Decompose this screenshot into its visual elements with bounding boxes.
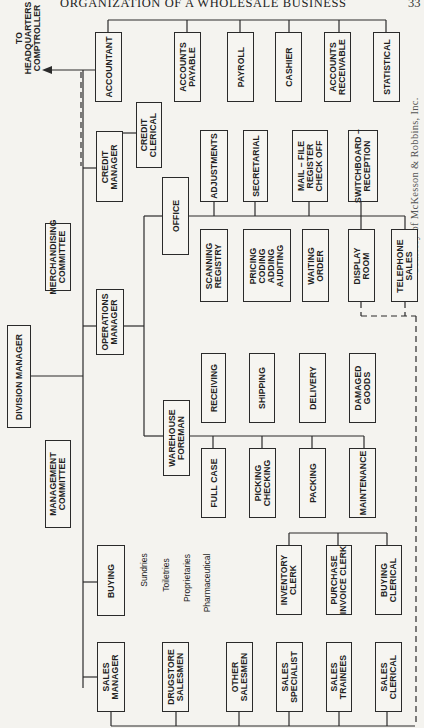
box-label: WAREHOUSE FOREMAN bbox=[168, 409, 186, 466]
org-chart-page: ORGANIZATION OF A WHOLESALE BUSINESS 33 … bbox=[0, 0, 424, 728]
box-label: SCANNING REGISTRY bbox=[205, 242, 223, 289]
box-label: CREDIT MANAGER bbox=[101, 144, 119, 189]
buying-category-pharmaceutical: Pharmaceutical bbox=[202, 554, 212, 613]
box-other-salesmen[interactable]: OTHER SALESMEN bbox=[226, 642, 253, 712]
box-sales-trainees[interactable]: SALES TRAINEES bbox=[326, 642, 352, 712]
box-label: OPERATIONS MANAGER bbox=[101, 293, 119, 350]
box-label: TELEPHONE SALES bbox=[396, 239, 414, 292]
box-label: CASHIER bbox=[284, 47, 293, 86]
box-accounts-payable[interactable]: ACCOUNTS PAYABLE bbox=[174, 32, 201, 102]
box-label: DELIVERY bbox=[308, 366, 317, 409]
box-label: MERCHANDISING COMMITTEE bbox=[49, 220, 67, 295]
box-buying[interactable]: BUYING bbox=[97, 545, 125, 616]
box-label: INVENTORY CLERK bbox=[280, 555, 298, 606]
buying-category-sundries: Sundries bbox=[139, 553, 149, 587]
box-label: ACCOUNTS RECEIVABLE bbox=[329, 39, 347, 95]
box-full-case[interactable]: FULL CASE bbox=[201, 448, 226, 518]
box-delivery[interactable]: DELIVERY bbox=[299, 353, 326, 423]
box-label: SALES CLERICAL bbox=[380, 655, 398, 699]
box-maintenance[interactable]: MAINTENANCE bbox=[349, 448, 376, 518]
box-label: SALES MANAGER bbox=[102, 654, 120, 699]
box-label: STATISTICAL bbox=[382, 39, 391, 95]
box-purchase-invoice-clerk[interactable]: PURCHASE INVOICE CLERK bbox=[326, 545, 352, 615]
box-accounts-receivable[interactable]: ACCOUNTS RECEIVABLE bbox=[324, 32, 351, 102]
box-label: SHIPPING bbox=[258, 367, 267, 409]
box-cashier[interactable]: CASHIER bbox=[275, 32, 302, 102]
box-waiting-order[interactable]: WAITING ORDER bbox=[302, 229, 329, 302]
box-label: CREDIT CLERICAL bbox=[140, 113, 158, 157]
box-label: ACCOUNTS PAYABLE bbox=[179, 42, 197, 92]
box-inventory-clerk[interactable]: INVENTORY CLERK bbox=[276, 545, 302, 615]
box-label: SECRETARIAL bbox=[251, 135, 260, 197]
box-picking-checking[interactable]: PICKING CHECKING bbox=[249, 448, 276, 518]
box-label: DAMAGED GOODS bbox=[354, 365, 372, 410]
box-receiving[interactable]: RECEIVING bbox=[201, 353, 226, 423]
box-shipping[interactable]: SHIPPING bbox=[249, 353, 275, 423]
box-sales-specialist[interactable]: SALES SPECIALIST bbox=[276, 642, 303, 712]
box-credit-manager[interactable]: CREDIT MANAGER bbox=[96, 131, 123, 202]
box-drugstore-salesmen[interactable]: DRUGSTORE SALESMEN bbox=[162, 642, 189, 712]
box-label: OFFICE bbox=[171, 200, 180, 232]
box-damaged-goods[interactable]: DAMAGED GOODS bbox=[349, 353, 376, 423]
box-mail-file[interactable]: MAIL – FILE REGISTER CHECK OFF bbox=[292, 130, 328, 202]
box-label: SALES TRAINEES bbox=[330, 655, 348, 699]
box-credit-clerical[interactable]: CREDIT CLERICAL bbox=[136, 102, 162, 168]
box-sales-clerical[interactable]: SALES CLERICAL bbox=[375, 642, 402, 712]
box-adjustments[interactable]: ADJUSTMENTS bbox=[200, 130, 228, 202]
buying-category-toiletries: Toiletries bbox=[161, 558, 171, 592]
box-label: PICKING CHECKING bbox=[254, 460, 272, 507]
box-statistical[interactable]: STATISTICAL bbox=[373, 32, 400, 102]
box-label: DRUGSTORE SALESMEN bbox=[167, 649, 185, 705]
box-label: PRICING CODING ADDING AUDITING bbox=[249, 244, 285, 286]
box-buying-clerical[interactable]: BUYING CLERICAL bbox=[375, 545, 402, 615]
box-pricing-coding[interactable]: PRICING CODING ADDING AUDITING bbox=[243, 229, 291, 302]
box-label: MAINTENANCE bbox=[358, 451, 367, 516]
box-label: PURCHASE INVOICE CLERK bbox=[330, 546, 348, 615]
box-warehouse-foreman[interactable]: WAREHOUSE FOREMAN bbox=[163, 400, 190, 476]
box-label: DIVISION MANAGER bbox=[15, 333, 24, 419]
box-label: FULL CASE bbox=[209, 459, 218, 508]
box-secretarial[interactable]: SECRETARIAL bbox=[243, 130, 268, 202]
box-label: BUYING bbox=[107, 563, 116, 597]
box-label: BUYING CLERICAL bbox=[380, 558, 398, 602]
box-merchandising-committee[interactable]: MERCHANDISING COMMITTEE bbox=[45, 223, 71, 291]
box-label: PAYROLL bbox=[236, 47, 245, 87]
box-payroll[interactable]: PAYROLL bbox=[227, 32, 254, 102]
box-accountant[interactable]: ACCOUNTANT bbox=[95, 32, 122, 102]
box-label: ADJUSTMENTS bbox=[210, 133, 219, 199]
box-display-room[interactable]: DISPLAY ROOM bbox=[348, 229, 375, 302]
box-label: MAIL – FILE REGISTER CHECK OFF bbox=[297, 140, 324, 191]
box-operations-manager[interactable]: DIVISION MANAGER OPERATIONS MANAGER bbox=[96, 289, 124, 355]
box-packing[interactable]: PACKING bbox=[299, 448, 326, 518]
headquarters-comptroller-label: TO HEADQUARTERS COMPTROLLER bbox=[15, 2, 42, 75]
box-label: RECEIVING bbox=[209, 364, 218, 412]
box-telephone-sales[interactable]: TELEPHONE SALES bbox=[391, 229, 418, 302]
box-sales-manager[interactable]: SALES MANAGER bbox=[97, 642, 125, 712]
box-label: DISPLAY ROOM bbox=[353, 247, 371, 284]
box-division-manager[interactable]: DIVISION MANAGER bbox=[7, 325, 31, 428]
box-label: MANAGEMENT COMMITTEE bbox=[49, 452, 67, 516]
box-label: PACKING bbox=[308, 463, 317, 503]
buying-category-proprietaries: Proprietaries bbox=[182, 554, 192, 602]
box-office[interactable]: OFFICE bbox=[162, 177, 189, 255]
box-scanning-registry[interactable]: SCANNING REGISTRY bbox=[200, 229, 228, 302]
box-management-committee[interactable]: MANAGEMENT COMMITTEE bbox=[45, 440, 71, 528]
box-switchboard-reception[interactable]: SWITCHBOARD – RECEPTION bbox=[348, 130, 378, 202]
box-label: SALES SPECIALIST bbox=[281, 651, 299, 703]
box-label: WAITING ORDER bbox=[307, 247, 325, 284]
box-label: ACCOUNTANT bbox=[104, 37, 113, 98]
box-label: SWITCHBOARD – RECEPTION bbox=[354, 129, 372, 203]
box-label: OTHER SALESMEN bbox=[231, 653, 249, 702]
